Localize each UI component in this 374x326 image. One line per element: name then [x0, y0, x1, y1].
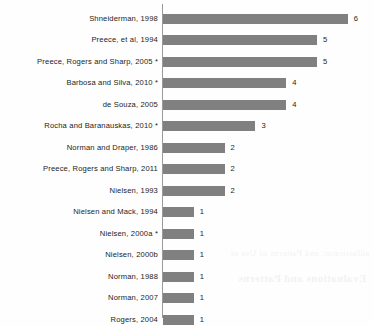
category-label: Nielsen, 1993 [110, 187, 158, 195]
bar-row: Preece, Rogers and Sharp, 20112 [0, 159, 374, 181]
bar-row: Shneiderman, 19986 [0, 8, 374, 30]
bar [163, 315, 194, 325]
bar-value-label: 5 [323, 36, 327, 44]
bar-row: Nielsen, 2000b1 [0, 245, 374, 267]
category-label: Preece, et al, 1994 [91, 36, 158, 44]
bar [163, 229, 194, 239]
category-label: Nielsen, 2000b [105, 251, 158, 259]
bar [163, 35, 317, 45]
category-label: Preece, Rogers and Sharp, 2005 * [37, 58, 158, 66]
bar [163, 57, 317, 67]
bar-row: Nielsen and Mack, 19941 [0, 202, 374, 224]
bar [163, 78, 286, 88]
category-label: Norman, 2007 [108, 294, 158, 302]
bar [163, 121, 255, 131]
bar [163, 293, 194, 303]
category-label: Norman and Draper, 1986 [67, 144, 158, 152]
category-label: Rogers, 2004 [111, 316, 158, 324]
category-label: Rocha and Baranauskas, 2010 * [44, 122, 158, 130]
bar-chart: adlustirator, and Patterns of Use of Eva… [0, 0, 374, 326]
bar [163, 14, 348, 24]
bar-row: Norman, 19881 [0, 266, 374, 288]
bar [163, 250, 194, 260]
category-label: Nielsen, 2000a * [100, 230, 158, 238]
bar-value-label: 4 [292, 79, 296, 87]
bar [163, 143, 225, 153]
bar-value-label: 2 [231, 187, 235, 195]
bar-value-label: 5 [323, 58, 327, 66]
bar [163, 272, 194, 282]
bar-value-label: 2 [231, 165, 235, 173]
bar-value-label: 4 [292, 101, 296, 109]
bar-value-label: 1 [200, 273, 204, 281]
bar [163, 186, 225, 196]
bar [163, 164, 225, 174]
bar-value-label: 3 [261, 122, 265, 130]
bar-row: Nielsen, 19932 [0, 180, 374, 202]
bar-row: Barbosa and Silva, 2010 *4 [0, 73, 374, 95]
bar-row: Preece, Rogers and Sharp, 2005 *5 [0, 51, 374, 73]
bar-value-label: 2 [231, 144, 235, 152]
bar-row: de Souza, 20054 [0, 94, 374, 116]
plot-area: Shneiderman, 19986Preece, et al, 19945Pr… [0, 0, 374, 326]
bar-row: Norman and Draper, 19862 [0, 137, 374, 159]
bar-value-label: 1 [200, 251, 204, 259]
category-label: Shneiderman, 1998 [89, 15, 158, 23]
bar-value-label: 1 [200, 316, 204, 324]
category-label: Norman, 1988 [108, 273, 158, 281]
bar [163, 100, 286, 110]
bar-row: Rogers, 20041 [0, 309, 374, 326]
bar-value-label: 1 [200, 230, 204, 238]
bar-value-label: 1 [200, 208, 204, 216]
bar-row: Nielsen, 2000a *1 [0, 223, 374, 245]
bar-value-label: 1 [200, 294, 204, 302]
bar-value-label: 6 [354, 15, 358, 23]
bar [163, 207, 194, 217]
category-label: Nielsen and Mack, 1994 [73, 208, 158, 216]
bar-row: Rocha and Baranauskas, 2010 *3 [0, 116, 374, 138]
category-label: de Souza, 2005 [103, 101, 158, 109]
category-label: Barbosa and Silva, 2010 * [66, 79, 158, 87]
bar-row: Norman, 20071 [0, 288, 374, 310]
bar-row: Preece, et al, 19945 [0, 30, 374, 52]
category-label: Preece, Rogers and Sharp, 2011 [43, 165, 158, 173]
